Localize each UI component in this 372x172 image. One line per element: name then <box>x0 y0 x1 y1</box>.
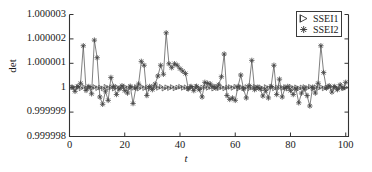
data-marker <box>152 81 157 86</box>
data-marker <box>100 102 105 107</box>
data-marker <box>89 91 94 96</box>
data-marker <box>257 86 262 91</box>
data-marker <box>310 85 315 90</box>
data-marker <box>199 94 204 99</box>
y-axis-label: det <box>6 46 18 86</box>
data-marker <box>119 83 124 88</box>
data-marker <box>191 88 196 93</box>
data-marker <box>268 84 273 89</box>
data-marker <box>338 82 343 87</box>
data-marker <box>313 90 318 95</box>
data-marker <box>183 71 188 76</box>
data-marker <box>92 37 97 42</box>
data-marker <box>141 63 146 68</box>
data-marker <box>128 84 133 89</box>
data-marker <box>108 75 113 80</box>
data-marker <box>175 63 180 68</box>
y-tick-label: 1 <box>61 81 66 92</box>
chart-figure: 0.9999980.99999911.0000011.0000021.00000… <box>0 0 372 172</box>
x-tick-label: 20 <box>105 139 145 150</box>
data-marker <box>244 95 249 100</box>
data-marker <box>271 63 276 68</box>
legend-label-ssei1: SSEI1 <box>313 13 339 24</box>
data-marker <box>296 100 301 105</box>
data-marker <box>343 80 348 85</box>
data-marker <box>188 84 193 89</box>
data-marker <box>224 93 229 98</box>
data-marker <box>194 84 199 89</box>
y-tick-label: 0.999999 <box>27 105 66 116</box>
data-marker <box>70 85 75 90</box>
data-marker <box>166 61 171 66</box>
legend-item-ssei2[interactable]: SSEI2 <box>298 24 339 35</box>
data-marker <box>114 92 119 97</box>
data-marker <box>221 51 226 56</box>
data-marker <box>72 89 77 94</box>
data-marker <box>78 81 83 86</box>
data-marker <box>285 84 290 89</box>
data-marker <box>158 63 163 68</box>
data-marker <box>321 70 326 75</box>
x-tick-label: 80 <box>270 139 310 150</box>
legend[interactable]: SSEI1 SSEI2 <box>296 11 342 37</box>
data-marker <box>233 98 238 103</box>
data-marker <box>86 84 91 89</box>
data-marker <box>139 59 144 64</box>
data-marker <box>315 81 320 86</box>
data-marker <box>94 55 99 60</box>
data-marker <box>307 103 312 108</box>
data-marker <box>304 93 309 98</box>
data-marker <box>216 82 221 87</box>
data-marker <box>125 90 130 95</box>
data-marker <box>111 84 116 89</box>
data-marker <box>326 83 331 88</box>
legend-label-ssei2: SSEI2 <box>313 24 339 35</box>
data-marker <box>329 89 334 94</box>
data-marker <box>263 88 268 93</box>
y-tick-label: 1.000003 <box>27 8 66 19</box>
data-marker <box>266 95 271 100</box>
data-marker <box>302 86 307 91</box>
data-marker <box>291 92 296 97</box>
data-marker <box>274 92 279 97</box>
data-marker <box>280 94 285 99</box>
asterisk-icon <box>298 24 313 35</box>
legend-item-ssei1[interactable]: SSEI1 <box>298 13 339 24</box>
data-marker <box>163 30 168 35</box>
data-marker <box>238 72 243 77</box>
data-marker <box>136 81 141 86</box>
data-marker <box>144 93 149 98</box>
data-marker <box>299 90 304 95</box>
data-marker <box>235 84 240 89</box>
y-tick-label: 1.000001 <box>27 56 66 67</box>
data-marker <box>241 86 246 91</box>
data-marker <box>161 72 166 77</box>
data-marker <box>249 58 254 63</box>
x-tick-label: 100 <box>326 139 366 150</box>
data-marker <box>105 98 110 103</box>
data-marker <box>169 65 174 70</box>
data-marker <box>246 83 251 88</box>
data-marker <box>219 74 224 79</box>
x-tick-label: 60 <box>215 139 255 150</box>
data-marker <box>83 88 88 93</box>
data-marker <box>155 73 160 78</box>
data-marker <box>277 76 282 81</box>
data-marker <box>335 87 340 92</box>
data-marker <box>260 93 265 98</box>
data-marker <box>197 87 202 92</box>
data-marker <box>133 85 138 90</box>
x-tick-label: 40 <box>160 139 200 150</box>
triangle-right-icon <box>298 13 313 24</box>
data-marker <box>288 88 293 93</box>
data-marker <box>340 85 345 90</box>
x-tick-label: 0 <box>50 139 90 150</box>
data-marker <box>293 86 298 91</box>
data-marker <box>81 43 86 48</box>
data-marker <box>213 85 218 90</box>
data-marker <box>103 88 108 93</box>
x-axis-label: t <box>0 152 372 164</box>
data-marker <box>97 94 102 99</box>
data-marker <box>318 43 323 48</box>
data-marker <box>130 101 135 106</box>
